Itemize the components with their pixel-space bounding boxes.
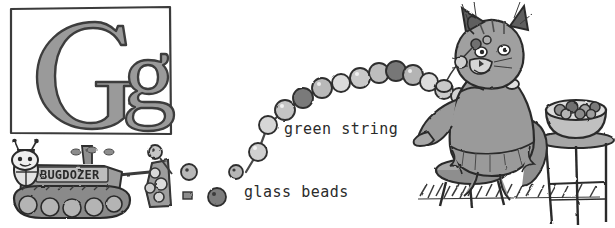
loose-bead [208,188,226,206]
loose-bead [229,165,243,179]
letter-card-g [11,7,174,134]
bead-bowl [546,100,606,138]
cat [414,2,547,200]
bug-driver [12,139,39,186]
label-glass-beads: glass beads [244,183,349,201]
label-green-string: green string [284,120,398,138]
bulldozer-body-text: BUGDOZER [40,168,100,182]
illustration-scene: BUGDOZER [0,0,615,228]
tall-stool [538,132,614,225]
loose-bead [148,145,162,159]
loose-bead [181,164,197,180]
